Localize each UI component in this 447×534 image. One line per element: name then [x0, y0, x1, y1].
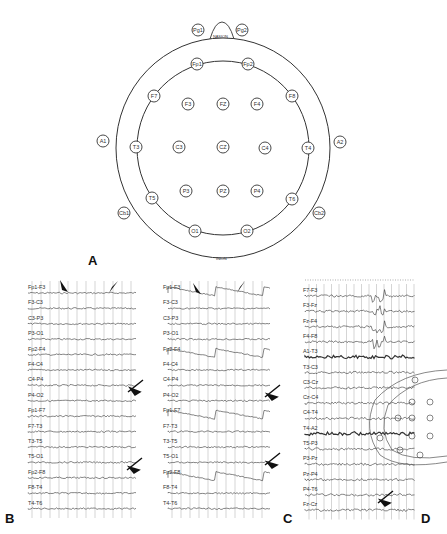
svg-text:F8: F8	[289, 93, 295, 99]
channel-label: F7-T3	[28, 423, 42, 429]
arrowhead-icon	[193, 283, 201, 294]
nasion-label: NASION	[213, 34, 228, 39]
channel-label: F7-T3	[163, 423, 177, 429]
channel-label: T5-O1	[163, 453, 178, 459]
electrode-group: Pg1Pg2Fp1Fp2F7F3FZF4F8A1T3C3CZC4T4A2T5P3…	[97, 24, 346, 237]
electrode-a2: A2	[334, 136, 346, 148]
channel-label: Pz-P4	[303, 471, 317, 477]
eeg-trace	[305, 494, 415, 496]
eeg-trace	[28, 308, 136, 310]
channel-label: Fp1-F7	[28, 407, 45, 413]
arrowhead-icon	[60, 280, 68, 292]
eeg-figure-canvas: Pg1Pg2Fp1Fp2F7F3FZF4F8A1T3C3CZC4T4A2T5P3…	[0, 0, 447, 534]
channel-label: F3-Fz	[303, 302, 317, 308]
channel-label: F4-C4	[163, 361, 178, 367]
channel-label: F8-T4	[28, 484, 42, 490]
electrode-pg2: Pg2	[236, 24, 248, 36]
eeg-trace	[168, 462, 270, 464]
panel-c-label: C	[283, 511, 292, 526]
eeg-trace	[168, 431, 270, 433]
eeg-trace	[28, 400, 136, 402]
eeg-trace	[305, 509, 415, 511]
channel-label: P4-O2	[28, 392, 43, 398]
electrode-f4: F4	[251, 98, 263, 110]
eeg-trace	[28, 369, 136, 371]
channel-label: Cz-C4	[303, 394, 318, 400]
eeg-trace	[305, 432, 415, 436]
svg-text:PZ: PZ	[219, 188, 227, 194]
electrode-fz: FZ	[217, 98, 229, 110]
arrow-icon	[128, 380, 143, 395]
electrode-t6: T6	[286, 193, 298, 205]
arrowhead-icon	[109, 281, 118, 293]
electrode-a1: A1	[97, 135, 109, 147]
electrode-o1: O1	[189, 225, 201, 237]
eeg-trace	[28, 492, 136, 494]
channel-label: T3-C3	[303, 364, 318, 370]
electrode-f7: F7	[148, 90, 160, 102]
svg-text:Fp1: Fp1	[192, 61, 201, 67]
eeg-trace	[168, 385, 270, 387]
channel-label: Fz-F4	[303, 318, 317, 324]
svg-text:O2: O2	[243, 228, 250, 234]
eeg-trace	[168, 410, 270, 419]
eeg-trace	[168, 348, 270, 357]
eeg-trace	[168, 508, 270, 510]
eeg-trace	[28, 338, 136, 340]
channel-label: P3-Pz	[303, 455, 317, 461]
channel-label: C3-P3	[28, 315, 43, 321]
panel-c-arrows	[193, 281, 280, 468]
channel-label: F7-F3	[303, 287, 317, 293]
channel-label: F8-T4	[163, 484, 177, 490]
eeg-trace	[305, 387, 415, 389]
eeg-trace	[28, 462, 136, 464]
panel-c-traces	[168, 281, 270, 518]
eeg-trace	[305, 306, 415, 315]
channel-label: Fp2-F4	[163, 346, 180, 352]
arrow-icon	[265, 385, 280, 400]
channel-label: C4-P4	[28, 376, 43, 382]
channel-label: P3-O1	[163, 330, 178, 336]
channel-label: Fp2-F8	[28, 469, 45, 475]
eeg-trace	[305, 321, 415, 333]
svg-text:Fp2: Fp2	[243, 61, 252, 67]
channel-label: F3-C3	[28, 299, 43, 305]
svg-text:A2: A2	[337, 139, 344, 145]
eeg-trace	[28, 415, 136, 417]
channel-label: C4-P4	[163, 376, 178, 382]
head-diagram: Pg1Pg2Fp1Fp2F7F3FZF4F8A1T3C3CZC4T4A2T5P3…	[97, 22, 346, 258]
eeg-trace	[305, 402, 415, 404]
arrow-icon	[265, 453, 280, 468]
eeg-trace	[168, 492, 270, 494]
svg-text:F3: F3	[185, 101, 191, 107]
svg-text:Cb2: Cb2	[314, 210, 324, 216]
electrode-cb2: Cb2	[313, 207, 325, 219]
channel-label: C4-T4	[303, 409, 318, 415]
eeg-trace	[168, 308, 270, 310]
channel-label: P4-O2	[163, 392, 178, 398]
eeg-trace	[305, 290, 415, 303]
channel-label: T4-T6	[163, 500, 177, 506]
channel-label: T5-P3	[303, 440, 317, 446]
channel-label: C3-Cz	[303, 379, 318, 385]
electrode-cz: CZ	[217, 141, 229, 153]
eeg-trace	[28, 431, 136, 433]
panel-d-traces	[305, 280, 415, 520]
panel-d-label: D	[421, 511, 430, 526]
svg-text:Cb1: Cb1	[119, 210, 129, 216]
channel-label: T5-O1	[28, 453, 43, 459]
electrode-t4: T4	[302, 142, 314, 154]
svg-text:O1: O1	[191, 228, 198, 234]
eeg-trace	[28, 508, 136, 510]
channel-label: C3-P3	[163, 315, 178, 321]
svg-text:F7: F7	[151, 93, 157, 99]
svg-text:T6: T6	[289, 196, 295, 202]
svg-text:Pg1: Pg1	[193, 27, 203, 33]
channel-label: Fp1-F7	[163, 407, 180, 413]
electrode-f3: F3	[182, 98, 194, 110]
svg-text:FZ: FZ	[220, 101, 227, 107]
panel-d-arrows	[378, 491, 393, 506]
eeg-trace	[28, 477, 136, 479]
channel-label: P3-O1	[28, 330, 43, 336]
arrow-icon	[127, 458, 142, 473]
